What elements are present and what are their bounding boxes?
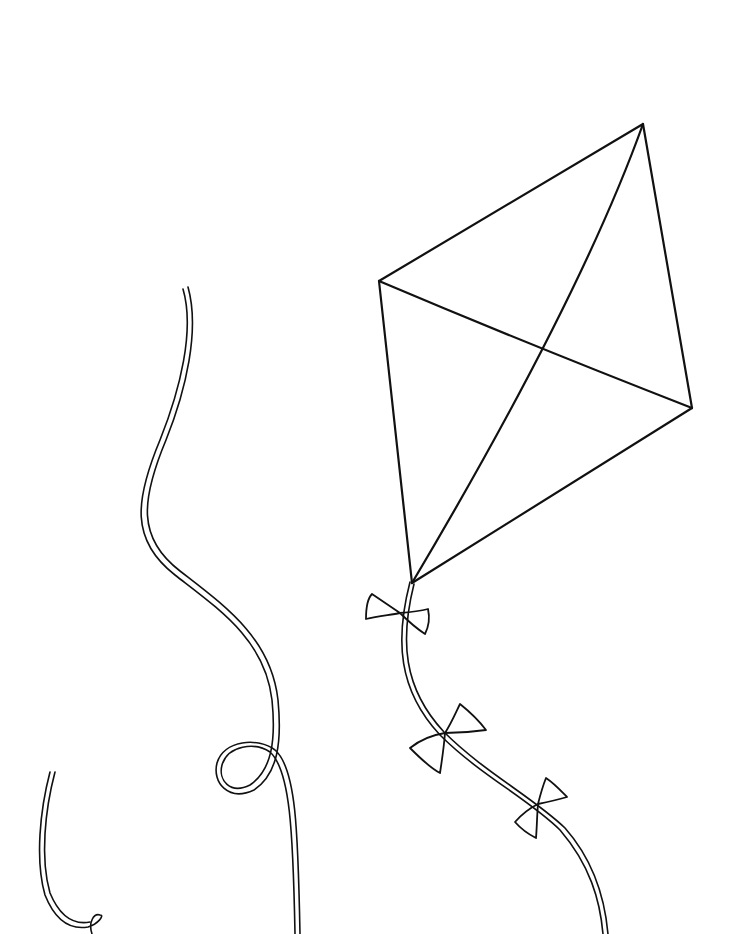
string-short xyxy=(40,772,102,934)
kite-icon xyxy=(379,124,692,583)
bow-icon xyxy=(410,704,486,773)
kite-tail xyxy=(402,582,608,934)
bow-icon xyxy=(366,594,429,634)
kite-drawing xyxy=(0,0,738,934)
string-with-loop xyxy=(141,287,300,934)
